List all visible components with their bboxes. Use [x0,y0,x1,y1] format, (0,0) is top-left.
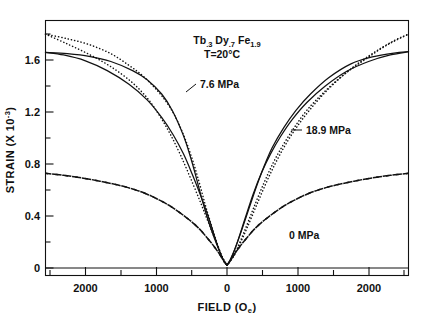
curve-189mpa-branch-up [46,34,228,265]
y-tick-label-1p2: 1.2 [25,106,40,118]
x-tick-label-neg1000: 1000 [144,282,168,294]
y-axis-title: STRAIN (X 10-3) [3,107,16,194]
y-tick-label-0p8: 0.8 [25,158,40,170]
stress-label-18p9mpa: 18.9 MPa [306,124,351,136]
y-tick-label-0: 0 [34,262,40,274]
curve-189mpa-branch-down-left [46,34,228,265]
x-axis-title-text: FIELD (O [198,301,248,313]
x-tick-label-pos1000: 1000 [286,282,310,294]
leader-line-7p6mpa [186,84,196,92]
curve-group [46,34,409,265]
subscript-fe: 1.9 [250,40,260,49]
y-tick-label-1p6: 1.6 [25,54,40,66]
material-formula-label: Tb.3 Dy.7 Fe1.9 [193,34,260,49]
curve-0mpa-branch-up-mirror [227,173,409,265]
element-dy: Dy [215,34,229,46]
y-tick-label-0p4: 0.4 [25,210,41,222]
x-tick-label-pos2000: 2000 [357,282,381,294]
element-tb: Tb [193,34,206,46]
stress-label-7p6mpa: 7.6 MPa [200,78,239,90]
temperature-label: T=20°C [204,48,240,60]
y-axis-title-main: STRAIN (X 10 [4,118,16,193]
stress-label-0mpa: 0 MPa [289,229,320,241]
y-axis-title-tail: ) [4,107,16,111]
y-axis-major-ticks [46,60,54,268]
x-axis-title: FIELD (Oe) [198,301,257,315]
curve-0mpa-branch-down [227,173,409,265]
x-tick-label-0: 0 [224,282,230,294]
svg-text:STRAIN (X 10-3): STRAIN (X 10-3) [3,107,16,194]
magnetostriction-chart: 0 0.4 0.8 1.2 1.6 STRAIN (X 10-3) [0,0,426,318]
figure-container: 0 0.4 0.8 1.2 1.6 STRAIN (X 10-3) [0,0,426,318]
element-fe: Fe [238,34,250,46]
y-axis-minor-ticks [46,34,51,242]
y-axis-title-exponent: -3 [3,111,12,118]
x-tick-label-neg2000: 2000 [73,282,97,294]
